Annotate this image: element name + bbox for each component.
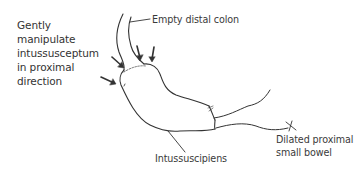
cut-mark: [286, 121, 296, 131]
intussuscipiens-outline-top: [144, 64, 209, 106]
tip-mark: [124, 84, 125, 86]
intussuscipiens-leader: [168, 131, 185, 152]
small-bowel-label: Dilated proximal small bowel: [276, 134, 353, 159]
distal-colon-label: Empty distal colon: [152, 13, 239, 26]
arrow-top-2-icon: [149, 47, 155, 62]
junction-dashed-line: [124, 66, 146, 72]
intussuscipiens-label: Intussuscipiens: [155, 152, 227, 165]
intussuscipiens-outline-bottom: [120, 70, 215, 131]
distal-colon-leader: [130, 19, 150, 22]
arrow-left-2-icon: [101, 77, 116, 85]
intussusception-diagram: Gently manipulate intussusceptum in prox…: [0, 0, 358, 170]
instruction-label: Gently manipulate intussusceptum in prox…: [17, 18, 99, 88]
small-bowel-top: [214, 90, 270, 118]
small-bowel-bottom: [216, 124, 288, 130]
